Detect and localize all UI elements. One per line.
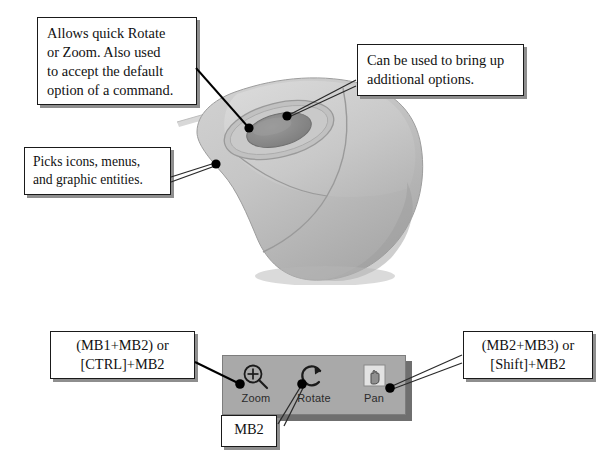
zoom-magnifier-plus-icon (227, 362, 285, 392)
zoom-shortcut-callout: (MB1+MB2) or [CTRL]+MB2 (50, 331, 195, 379)
toolbar-label-rotate: Rotate (285, 392, 343, 404)
wheel-callout: Allows quick Rotate or Zoom. Also used t… (37, 17, 197, 105)
wheel-callout-line-1: Allows quick Rotate (47, 24, 196, 43)
toolbar-label-pan: Pan (345, 392, 403, 404)
wheel-callout-line-3: to accept the default (47, 62, 196, 81)
three-button-mouse (175, 70, 435, 285)
wheel-callout-line-4: option of a command. (47, 81, 196, 100)
wheel-callout-line-2: or Zoom. Also used (47, 43, 196, 62)
pan-shortcut-line-1: (MB2+MB3) or (464, 336, 592, 355)
toolbar-label-zoom: Zoom (227, 392, 285, 404)
view-toolbar: Zoom Rotate Pan (222, 355, 406, 415)
toolbar-button-pan[interactable]: Pan (345, 360, 403, 412)
pan-shortcut-line-2: [Shift]+MB2 (464, 355, 592, 374)
pan-shortcut-callout: (MB2+MB3) or [Shift]+MB2 (463, 331, 593, 379)
zoom-shortcut-line-2: [CTRL]+MB2 (51, 355, 194, 374)
right-button-callout-line-2: additional options. (367, 70, 523, 89)
rotate-arrow-icon (285, 362, 343, 392)
toolbar-button-zoom[interactable]: Zoom (227, 360, 285, 412)
left-button-callout-line-1: Picks icons, menus, (33, 153, 170, 171)
pan-hand-icon (345, 362, 403, 392)
zoom-shortcut-line-1: (MB1+MB2) or (51, 336, 194, 355)
toolbar-button-rotate[interactable]: Rotate (285, 360, 343, 412)
rotate-shortcut-callout: MB2 (221, 415, 277, 447)
rotate-shortcut-line-1: MB2 (222, 420, 276, 439)
right-button-callout: Can be used to bring up additional optio… (357, 44, 524, 96)
right-button-callout-line-1: Can be used to bring up (367, 51, 523, 70)
mouse-reference-diagram: Zoom Rotate Pan Allows quick Rotate (0, 0, 600, 475)
left-button-callout: Picks icons, menus, and graphic entities… (24, 147, 171, 195)
left-button-callout-line-2: and graphic entities. (33, 171, 170, 189)
